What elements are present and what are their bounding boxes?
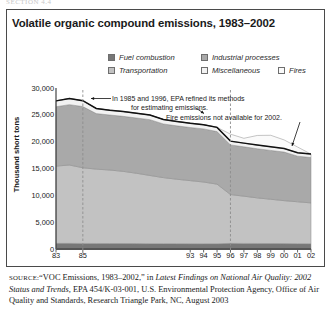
annotation-leader-fires (292, 122, 300, 146)
source-note: SOURCE:“VOC Emissions, 1983–2002,” in La… (9, 272, 324, 307)
source-part1: “VOC Emissions, 1983–2002,” in (39, 273, 155, 282)
annotation-epa-methods-line2: for estimating emissions. (131, 104, 208, 111)
annotation-leader-1985 (91, 97, 111, 100)
figure-page: SECTION 4.4 Volatile organic compound em… (0, 0, 331, 333)
annotation-epa-methods-line1: In 1985 and 1996, EPA refined its method… (112, 95, 245, 102)
annotation-fire-emissions: Fire emissions not available for 2002. (166, 114, 282, 121)
source-label: SOURCE: (9, 274, 39, 281)
